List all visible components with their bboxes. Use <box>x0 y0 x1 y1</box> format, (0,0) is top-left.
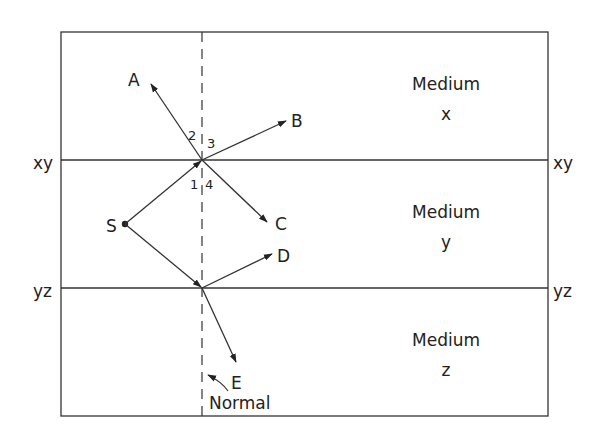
angle-1: 1 <box>190 177 198 192</box>
ray-d <box>202 254 272 288</box>
medium-z-title: Medium <box>412 330 480 350</box>
angle-4: 4 <box>205 177 213 192</box>
ray-e <box>202 288 236 362</box>
medium-x-letter: x <box>441 104 451 124</box>
label-a: A <box>128 70 140 90</box>
incident-ray-lower <box>125 224 201 287</box>
medium-y-letter: y <box>441 232 451 252</box>
angle-3: 3 <box>207 136 215 151</box>
label-b: B <box>291 111 303 131</box>
normal-pointer-arrow <box>208 375 228 391</box>
normal-label: Normal <box>209 393 271 413</box>
interface-xy-right-label: xy <box>553 153 573 173</box>
label-e: E <box>231 373 242 393</box>
angle-2: 2 <box>188 128 196 143</box>
optics-diagram: A B C D E S 2 3 1 4 Normal xy xy yz yz M… <box>0 0 612 441</box>
medium-y-title: Medium <box>412 202 480 222</box>
label-c: C <box>275 214 287 234</box>
interface-yz-left-label: yz <box>33 281 52 301</box>
label-d: D <box>277 246 290 266</box>
medium-x-title: Medium <box>412 74 480 94</box>
ray-a <box>151 84 202 160</box>
label-source: S <box>106 216 117 236</box>
incident-ray-upper <box>125 161 201 224</box>
medium-z-letter: z <box>442 360 451 380</box>
interface-yz-right-label: yz <box>553 281 572 301</box>
interface-xy-left-label: xy <box>33 153 53 173</box>
